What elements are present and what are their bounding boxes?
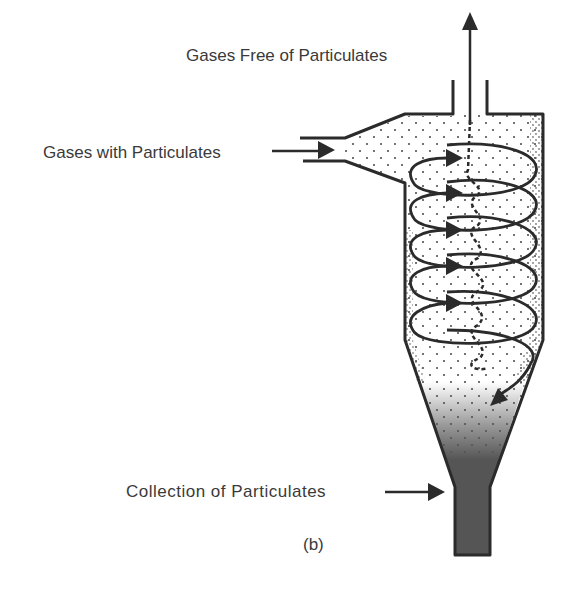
outlet-arrow-icon [462, 12, 478, 30]
collected-dust [420, 382, 525, 555]
inlet-arrow-icon [318, 141, 335, 159]
collection-arrow-icon [428, 483, 445, 501]
cyclone-diagram [0, 0, 582, 597]
